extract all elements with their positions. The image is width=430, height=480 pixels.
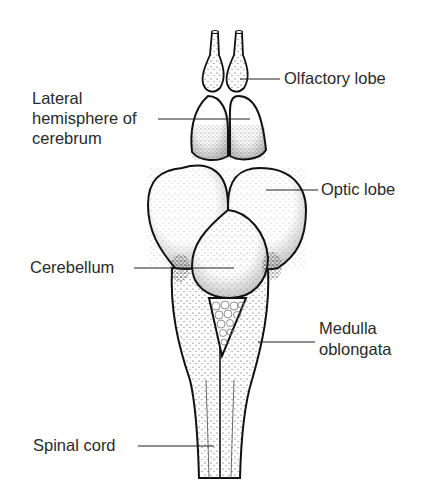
label-lateral-hemisphere-line1: Lateral (32, 88, 82, 108)
olfactory-lobes-shape (203, 31, 248, 92)
label-spinal-cord: Spinal cord (33, 435, 116, 455)
label-lateral-hemisphere-line3: cerebrum (32, 128, 102, 148)
label-olfactory-lobe: Olfactory lobe (284, 68, 386, 88)
label-medulla-line1: Medulla (319, 318, 377, 338)
label-medulla-line2: oblongata (319, 339, 392, 359)
label-cerebellum: Cerebellum (30, 257, 114, 277)
label-optic-lobe: Optic lobe (321, 179, 395, 199)
brain-diagram: Olfactory lobe Lateral hemisphere of cer… (0, 0, 430, 480)
label-lateral-hemisphere-line2: hemisphere of (32, 108, 137, 128)
cerebral-hemispheres-shape (191, 96, 266, 160)
